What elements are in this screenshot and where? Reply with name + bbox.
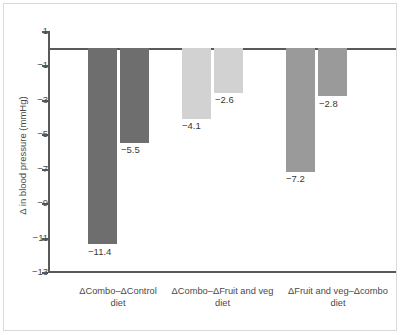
x-category-label-3-line1: ΔFruit and veg–Δcombo bbox=[277, 286, 399, 298]
x-category-label-2-line1: ΔCombo–ΔFruit and veg bbox=[160, 286, 285, 298]
bar-value-label: −5.5 bbox=[121, 145, 140, 155]
bar-value-label: −4.1 bbox=[182, 121, 201, 131]
bar-value-label: −7.2 bbox=[286, 174, 305, 184]
y-tick-label: −1 bbox=[20, 60, 48, 70]
bar-group3-series1 bbox=[286, 48, 315, 172]
bar-value-label: −2.6 bbox=[215, 95, 234, 105]
y-axis-line bbox=[48, 31, 50, 273]
bar-value-label: −11.4 bbox=[88, 247, 111, 257]
x-category-label-3: ΔFruit and veg–Δcombo diet bbox=[277, 286, 399, 309]
bar-group3-series2 bbox=[318, 48, 347, 96]
bar-group2-series1 bbox=[182, 48, 211, 119]
y-tick-label: −13 bbox=[20, 267, 48, 277]
bar-value-label: −2.8 bbox=[319, 99, 338, 109]
y-tick-label: −11 bbox=[20, 233, 48, 243]
y-axis-title: Δ in blood pressure (mmHg) bbox=[17, 61, 28, 251]
bar-group2-series2 bbox=[214, 48, 243, 93]
x-category-label-2: ΔCombo–ΔFruit and veg diet bbox=[160, 286, 285, 309]
x-axis-line bbox=[48, 271, 396, 273]
bar-chart: Δ in blood pressure (mmHg) 1 −1 −3 −5 −7… bbox=[0, 0, 401, 335]
bar-group1-series1 bbox=[88, 48, 117, 244]
y-tick-label: −3 bbox=[20, 95, 48, 105]
y-tick-label: −5 bbox=[20, 129, 48, 139]
x-category-label-2-line2: diet bbox=[160, 298, 285, 310]
chart-page: Δ in blood pressure (mmHg) 1 −1 −3 −5 −7… bbox=[0, 0, 401, 335]
y-tick-label: −9 bbox=[20, 198, 48, 208]
y-tick-label: −7 bbox=[20, 164, 48, 174]
x-category-label-3-line2: diet bbox=[277, 298, 399, 310]
y-tick-label: 1 bbox=[20, 26, 48, 36]
bar-group1-series2 bbox=[120, 48, 149, 143]
